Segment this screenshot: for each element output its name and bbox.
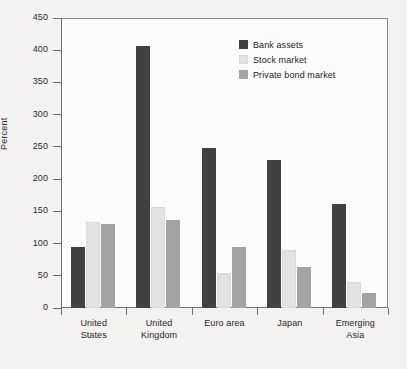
y-axis-tick-label: 50	[38, 271, 48, 280]
legend-label: Private bond market	[253, 70, 335, 80]
bar	[151, 207, 165, 308]
y-axis-title: Percent	[0, 118, 9, 150]
y-axis-tick-label: 250	[33, 142, 48, 151]
legend-item[interactable]: Stock market	[239, 53, 335, 66]
bar	[86, 222, 100, 308]
bar	[297, 267, 311, 308]
x-axis-category-label: Euro area	[192, 318, 257, 330]
x-axis-category-label: UnitedStates	[61, 318, 126, 341]
y-axis-tick	[53, 114, 61, 115]
chart-legend: Bank assetsStock marketPrivate bond mark…	[239, 38, 335, 83]
legend-swatch-icon	[239, 40, 248, 49]
bar	[101, 224, 115, 308]
x-axis-category-label: EmergingAsia	[323, 318, 388, 341]
legend-item[interactable]: Bank assets	[239, 38, 335, 51]
x-axis-category-label: UnitedKingdom	[126, 318, 191, 341]
bar	[166, 220, 180, 308]
bar	[136, 46, 150, 308]
y-axis-tick	[53, 50, 61, 51]
y-axis-tick-label: 350	[33, 77, 48, 86]
bar	[347, 282, 361, 308]
x-axis-category-label: Japan	[257, 318, 322, 330]
legend-label: Bank assets	[253, 40, 303, 50]
x-axis-group-separator	[61, 308, 62, 315]
y-axis-tick	[53, 179, 61, 180]
x-axis-group-separator	[388, 308, 389, 315]
x-axis-category-label-line: Japan	[257, 318, 322, 330]
bar	[232, 247, 246, 308]
x-axis-category-label-line: Kingdom	[126, 330, 191, 342]
y-axis-tick-label: 300	[33, 110, 48, 119]
y-axis-tick	[53, 146, 61, 147]
x-axis-category-label-line: Euro area	[192, 318, 257, 330]
chart-figure: Percent 050100150200250300350400450Unite…	[0, 0, 407, 369]
legend-swatch-icon	[239, 70, 248, 79]
y-axis-tick	[53, 243, 61, 244]
legend-label: Stock market	[253, 55, 307, 65]
bar	[71, 247, 85, 308]
y-axis-tick	[53, 82, 61, 83]
x-axis-category-label-line: United	[126, 318, 191, 330]
y-axis-tick	[53, 211, 61, 212]
y-axis-tick-label: 0	[43, 303, 48, 312]
bar	[282, 250, 296, 308]
bar	[362, 293, 376, 308]
bar	[202, 148, 216, 308]
bar	[217, 273, 231, 308]
y-axis-tick-label: 450	[33, 13, 48, 22]
x-axis-category-label-line: United	[61, 318, 126, 330]
bar	[267, 160, 281, 308]
x-axis-category-label-line: States	[61, 330, 126, 342]
legend-swatch-icon	[239, 55, 248, 64]
y-axis-tick	[53, 275, 61, 276]
y-axis-tick-label: 400	[33, 45, 48, 54]
x-axis-group-separator	[257, 308, 258, 315]
y-axis-tick-label: 100	[33, 239, 48, 248]
y-axis-tick-label: 200	[33, 174, 48, 183]
y-axis-tick	[53, 18, 61, 19]
y-axis-tick	[53, 308, 61, 309]
bar	[332, 204, 346, 308]
x-axis-category-label-line: Asia	[323, 330, 388, 342]
x-axis-group-separator	[323, 308, 324, 315]
x-axis-group-separator	[126, 308, 127, 315]
y-axis-line	[61, 18, 62, 308]
x-axis-group-separator	[192, 308, 193, 315]
y-axis-tick-label: 150	[33, 206, 48, 215]
x-axis-category-label-line: Emerging	[323, 318, 388, 330]
legend-item[interactable]: Private bond market	[239, 68, 335, 81]
